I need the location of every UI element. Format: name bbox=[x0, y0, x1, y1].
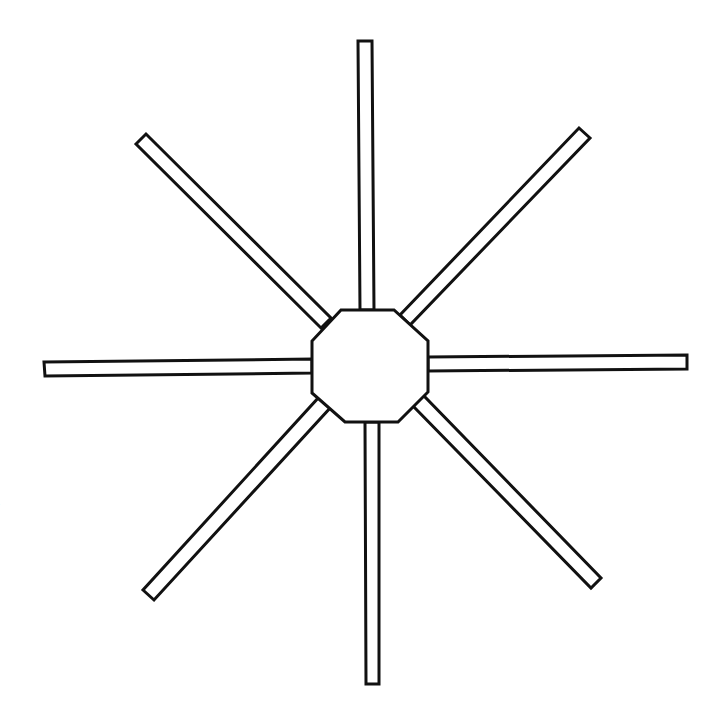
spoke-northeast bbox=[400, 128, 590, 325]
spoke-east bbox=[428, 355, 687, 371]
spoke-south bbox=[365, 422, 379, 684]
octagon-hub bbox=[312, 310, 428, 422]
spoke-northwest bbox=[136, 134, 331, 328]
spoke-north bbox=[358, 41, 374, 310]
octagon-hub-spoke-diagram bbox=[0, 0, 720, 710]
spoke-southwest bbox=[143, 396, 331, 600]
spoke-southeast bbox=[413, 395, 601, 588]
spoke-west bbox=[44, 359, 312, 376]
